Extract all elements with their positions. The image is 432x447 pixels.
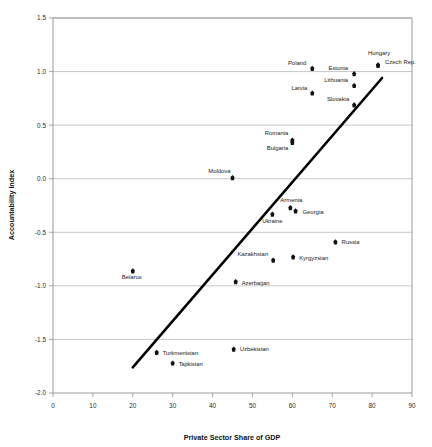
x-tick-label-0: 0 (51, 402, 55, 409)
data-label-uzbekistan: Uzbekistan (240, 346, 269, 352)
x-axis-title: Private Sector Share of GDP (184, 433, 281, 442)
y-tick-label-1: -1.5 (35, 336, 46, 343)
x-tick-label-6: 60 (289, 402, 297, 409)
data-label-armenia: Armenia (280, 197, 303, 203)
data-label-turkmenistan: Turkmenistan (163, 350, 198, 356)
data-label-czech-rep-: Czech Rep. (385, 59, 416, 65)
data-label-kazakhstan: Kazakhstan (237, 251, 268, 257)
x-tick-label-3: 30 (169, 402, 177, 409)
data-label-slovakia: Slovakia (327, 96, 350, 102)
x-tick-label-2: 20 (129, 402, 137, 409)
data-label-bulgaria: Bulgaria (267, 145, 289, 151)
chart-canvas: -2.0-1.5-1.0-0.50.00.51.01.5 01020304050… (0, 0, 432, 447)
x-tick-label-9: 90 (408, 402, 416, 409)
data-label-kyrgyzstan: Kyrgyzstan (299, 255, 328, 261)
scatter-chart: -2.0-1.5-1.0-0.50.00.51.01.5 01020304050… (0, 0, 432, 447)
data-label-georgia: Georgia (303, 209, 325, 215)
data-label-tajikistan: Tajikistan (179, 361, 203, 367)
data-label-russia: Russia (341, 239, 360, 245)
data-label-lithuania: Lithuania (324, 77, 349, 83)
y-tick-label-6: 1.0 (37, 68, 46, 75)
y-tick-label-5: 0.5 (37, 122, 46, 129)
y-tick-label-7: 1.5 (37, 14, 46, 21)
data-label-estonia: Estonia (329, 65, 349, 71)
y-tick-label-3: -0.5 (35, 229, 46, 236)
x-tick-label-5: 50 (249, 402, 257, 409)
x-tick-label-7: 70 (329, 402, 337, 409)
y-tick-label-0: -2.0 (35, 389, 46, 396)
chart-background (0, 0, 432, 447)
y-tick-label-2: -1.0 (35, 282, 46, 289)
y-tick-label-4: 0.0 (37, 175, 46, 182)
x-tick-label-4: 40 (209, 402, 217, 409)
x-tick-label-1: 10 (89, 402, 97, 409)
data-label-latvia: Latvia (292, 85, 308, 91)
data-label-hungary: Hungary (368, 50, 390, 56)
data-label-ukraine: Ukraine (262, 218, 283, 224)
data-label-moldova: Moldova (208, 168, 231, 174)
data-label-azerbaijan: Azerbaijan (242, 280, 270, 286)
x-tick-label-8: 80 (369, 402, 377, 409)
y-axis-title: Accountability Index (7, 170, 16, 240)
data-label-poland: Poland (288, 60, 306, 66)
data-label-belarus: Belarus (122, 274, 142, 280)
data-label-romania: Romania (265, 130, 289, 136)
